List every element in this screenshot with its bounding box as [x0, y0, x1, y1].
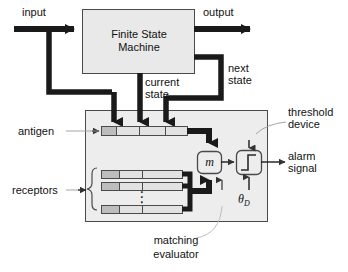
receptor-0-cell-0 — [102, 171, 120, 179]
receptor-ellipsis: ⋮ — [133, 190, 151, 204]
antigen-row — [102, 127, 188, 136]
diagram-canvas: input output Finite State Machine curren… — [0, 0, 348, 272]
label-threshold-device-line2: device — [288, 118, 320, 131]
label-receptors: receptors — [12, 184, 58, 197]
fsm-block-title-line2: Machine — [103, 41, 175, 54]
receptor-1-cell-0 — [102, 183, 120, 191]
receptor-2-cell-1 — [120, 206, 143, 214]
antigen-cell-0 — [102, 127, 117, 136]
antigen-cell-3 — [166, 127, 188, 136]
receptor-2-cell-2 — [143, 206, 183, 214]
label-antigen: antigen — [18, 125, 54, 138]
label-matching-evaluator-line2: evaluator — [140, 248, 212, 261]
label-current-state-line1: current — [145, 76, 179, 89]
antigen-cell-1 — [117, 127, 140, 136]
label-matching-evaluator-line1: matching — [140, 234, 212, 247]
label-threshold-device-line1: threshold — [288, 106, 333, 119]
theta-d-label: θD — [238, 192, 250, 208]
receptor-0-cell-1 — [120, 171, 143, 179]
label-output: output — [203, 6, 234, 19]
receptor-0-cell-2 — [143, 171, 183, 179]
matching-evaluator-symbol: m — [197, 155, 222, 170]
label-next-state-line2: state — [228, 74, 252, 87]
label-input: input — [22, 6, 46, 19]
label-current-state-line2: state — [145, 88, 169, 101]
label-alarm-signal-line1: alarm — [288, 150, 316, 163]
theta-d-subscript: D — [244, 199, 250, 208]
receptor-ellipsis-glyph: ⋮ — [135, 188, 150, 205]
fsm-block-title-line1: Finite State — [103, 28, 175, 41]
label-next-state-line1: next — [228, 62, 249, 75]
threshold-device-box — [237, 151, 262, 175]
antigen-cell-2 — [140, 127, 166, 136]
matching-evaluator-symbol-text: m — [205, 155, 214, 169]
receptor-2-cell-0 — [102, 206, 120, 214]
label-alarm-signal-line2: signal — [288, 162, 317, 175]
